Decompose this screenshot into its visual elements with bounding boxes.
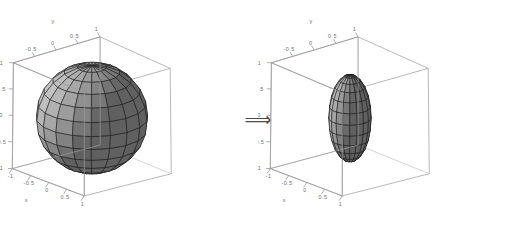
mesh-face (357, 124, 364, 136)
mesh-face (91, 122, 110, 137)
mesh-face (108, 105, 126, 122)
mesh-face (91, 148, 109, 160)
x-tick-label: -0.5 (23, 180, 34, 186)
box-edge (84, 174, 171, 196)
mesh-face (343, 145, 349, 153)
y-tick (333, 39, 336, 43)
figure-root: -1-0.500.51x-0.500.51y-1-0.500.51z ⟹ -1-… (0, 0, 516, 238)
mesh-face (350, 92, 356, 102)
mesh-face (344, 92, 350, 102)
x-tick-label: 0 (303, 187, 306, 193)
mesh-face (343, 125, 350, 136)
y-tick (98, 33, 101, 37)
mesh-face (343, 102, 350, 113)
surface-mesh (329, 74, 371, 161)
y-tick-label: -0.5 (26, 46, 37, 52)
x-tick-label: -1 (266, 173, 272, 179)
x-tick-label: 1 (81, 201, 84, 207)
z-tick-label: 1 (0, 60, 3, 66)
box-edge (12, 63, 13, 169)
y-tick (54, 46, 57, 50)
z-tick-label: 1 (258, 60, 261, 66)
y-tick (356, 33, 359, 37)
mesh-face (350, 125, 357, 136)
mesh-face (350, 102, 357, 113)
box-edge (271, 63, 342, 93)
y-tick (32, 52, 35, 56)
mesh-face (363, 110, 368, 123)
mesh-face (73, 135, 92, 149)
y-tick (312, 46, 315, 50)
z-tick-label: 0 (258, 112, 261, 118)
z-tick-label: -1 (258, 165, 261, 171)
x-axis-label: x (283, 197, 286, 203)
mesh-face (91, 159, 107, 168)
mesh-face (350, 113, 357, 125)
panel-ellipsoid: -1-0.500.51x-0.500.51y-1-0.500.51z (258, 0, 516, 238)
sphere-plot-svg: -1-0.500.51x-0.500.51y-1-0.500.51z (0, 0, 258, 238)
x-axis-label: x (25, 197, 28, 203)
mesh-face (91, 136, 110, 150)
z-tick-label: -0.5 (0, 139, 6, 145)
mesh-face (343, 136, 350, 146)
y-tick-label: 0 (51, 40, 54, 46)
z-tick-label: 0.5 (0, 86, 6, 92)
z-tick-label: 0.5 (258, 86, 264, 92)
mesh-face (357, 112, 364, 125)
mesh-face (91, 94, 107, 108)
mesh-face (73, 121, 92, 136)
mesh-face (356, 101, 363, 113)
mesh-face (336, 112, 343, 125)
mesh-face (350, 136, 357, 146)
z-tick-label: 0 (0, 112, 3, 118)
z-tick-label: -1 (0, 165, 3, 171)
mesh-face (343, 113, 350, 125)
box-edge (428, 68, 429, 173)
x-tick-label: 1 (339, 201, 342, 207)
y-tick (75, 39, 78, 43)
box-edge (270, 63, 271, 169)
mesh-face (75, 94, 91, 109)
x-tick-label: 0 (45, 187, 48, 193)
mesh-face (331, 110, 336, 123)
mesh-face (336, 123, 343, 135)
box-edge (170, 68, 171, 173)
box-edge (100, 37, 170, 68)
box-edge (342, 174, 429, 196)
y-tick-label: 0 (309, 40, 312, 46)
z-tick-label: -0.5 (258, 139, 264, 145)
y-tick-label: 1 (95, 26, 98, 32)
x-tick-label: 0.5 (319, 194, 328, 200)
mesh-face (73, 107, 91, 122)
y-tick-label: -0.5 (284, 46, 295, 52)
y-tick-label: 0.5 (328, 33, 337, 39)
y-axis-label: y (309, 18, 312, 24)
x-tick-label: -0.5 (281, 180, 292, 186)
y-axis-label: y (51, 18, 54, 24)
y-tick-label: 1 (353, 26, 356, 32)
y-tick-label: 0.5 (70, 33, 79, 39)
x-tick-label: -1 (8, 173, 14, 179)
mesh-face (57, 104, 75, 121)
box-edge (358, 37, 428, 68)
mesh-face (356, 135, 363, 146)
surface-mesh (37, 62, 148, 174)
box-edge (358, 145, 429, 174)
ellipsoid-plot-svg: -1-0.500.51x-0.500.51y-1-0.500.51z (258, 0, 516, 238)
x-tick-label: 0.5 (61, 194, 70, 200)
y-tick (290, 52, 293, 56)
panel-sphere: -1-0.500.51x-0.500.51y-1-0.500.51z (0, 0, 258, 238)
